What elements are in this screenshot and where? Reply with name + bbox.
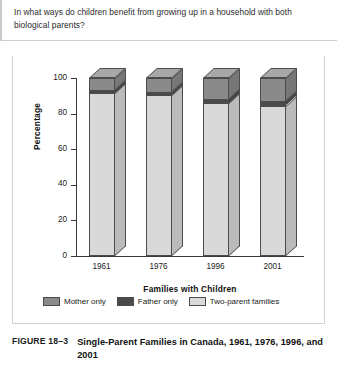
y-tick-label: 40: [58, 179, 67, 188]
x-axis-label-1961: 1961: [81, 262, 123, 271]
y-tick-mark: [71, 78, 77, 79]
y-tick-40: 40: [71, 185, 77, 186]
bar-group-1996[interactable]: [203, 78, 229, 256]
chart-legend: Mother onlyFather onlyTwo-parent familie…: [43, 297, 318, 306]
x-axis-label-2001: 2001: [252, 262, 294, 271]
y-tick-mark: [71, 256, 77, 257]
bar-segment-1961-two-parent-families[interactable]: [89, 93, 115, 256]
bar-group-1976[interactable]: [146, 78, 172, 256]
y-tick-0: 0: [71, 256, 77, 257]
y-tick-mark: [71, 220, 77, 221]
bar-segment-1996-father-only[interactable]: [203, 99, 229, 103]
bar-side-1976-0: [172, 85, 183, 256]
bar-segment-1976-mother-only[interactable]: [146, 78, 172, 92]
bar-segment-1961-mother-only[interactable]: [89, 78, 115, 90]
y-tick-label: 20: [58, 215, 67, 224]
y-tick-mark: [71, 185, 77, 186]
question-text: In what ways do children benefit from gr…: [14, 6, 327, 32]
bar-side-1996-0: [229, 93, 240, 256]
bar-segment-2001-father-only[interactable]: [260, 101, 286, 105]
bar-segment-1996-mother-only[interactable]: [203, 78, 229, 99]
bar-side-2001-0: [286, 96, 297, 256]
legend-swatch-icon: [117, 297, 134, 306]
legend-label: Father only: [138, 297, 178, 306]
y-axis-title: Percentage: [32, 103, 42, 150]
x-axis-label-1976: 1976: [138, 262, 180, 271]
legend-label: Two-parent families: [210, 297, 279, 306]
y-tick-100: 100: [71, 78, 77, 79]
question-block: In what ways do children benefit from gr…: [0, 0, 337, 41]
figure-caption: FIGURE 18–3 Single-Parent Families in Ca…: [12, 336, 332, 361]
bar-segment-2001-mother-only[interactable]: [260, 78, 286, 101]
chart-plot-area: 020406080100 Percentage 1961197619962001…: [13, 56, 326, 324]
y-tick-label: 80: [58, 108, 67, 117]
y-tick-20: 20: [71, 220, 77, 221]
legend-label: Mother only: [64, 297, 106, 306]
bar-segment-1996-two-parent-families[interactable]: [203, 103, 229, 256]
x-axis-title: Families with Children: [76, 284, 304, 294]
legend-item-two-parent-families[interactable]: Two-parent families: [189, 297, 279, 306]
x-axis-line: [76, 256, 304, 257]
legend-swatch-icon: [43, 297, 60, 306]
figure-number-label: FIGURE 18–3: [12, 336, 68, 346]
bar-segment-1976-two-parent-families[interactable]: [146, 95, 172, 256]
figure-caption-title: Single-Parent Families in Canada, 1961, …: [77, 336, 332, 361]
bar-group-2001[interactable]: [260, 78, 286, 256]
x-axis-label-1996: 1996: [195, 262, 237, 271]
y-tick-60: 60: [71, 149, 77, 150]
bar-side-1961-0: [115, 83, 126, 256]
y-tick-label: 0: [62, 251, 67, 260]
y-tick-mark: [71, 149, 77, 150]
legend-item-father-only[interactable]: Father only: [117, 297, 178, 306]
bar-segment-2001-two-parent-families[interactable]: [260, 106, 286, 256]
figure-panel: 020406080100 Percentage 1961197619962001…: [12, 56, 325, 324]
y-tick-mark: [71, 114, 77, 115]
y-tick-label: 100: [53, 73, 67, 82]
y-tick-label: 60: [58, 144, 67, 153]
bar-segment-1961-father-only[interactable]: [89, 90, 115, 93]
y-axis-line: [76, 78, 77, 257]
legend-swatch-icon: [189, 297, 206, 306]
bar-group-1961[interactable]: [89, 78, 115, 256]
y-tick-80: 80: [71, 114, 77, 115]
bar-segment-1976-father-only[interactable]: [146, 92, 172, 95]
legend-item-mother-only[interactable]: Mother only: [43, 297, 106, 306]
